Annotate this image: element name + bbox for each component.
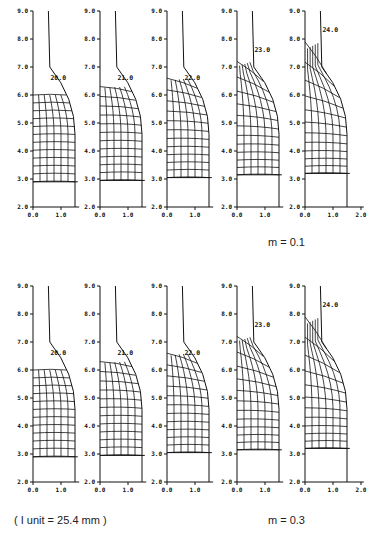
x-tick-label: 1.0	[190, 486, 201, 493]
mesh-row-2: 2.03.04.05.06.07.08.09.00.01.020.02.03.0…	[17, 282, 367, 493]
y-tick-label: 2.0	[84, 203, 95, 210]
y-tick-label: 2.0	[151, 203, 162, 210]
y-tick-label: 3.0	[151, 175, 162, 182]
x-tick-label: 1.0	[56, 211, 67, 218]
mesh-panel: 2.03.04.05.06.07.08.09.00.01.022.0	[151, 282, 213, 493]
stage-label: 20.0	[50, 349, 66, 357]
y-tick-label: 7.0	[221, 63, 232, 70]
y-tick-label: 5.0	[289, 394, 300, 401]
x-tick-label: 0.0	[28, 486, 39, 493]
y-tick-label: 7.0	[17, 338, 28, 345]
x-tick-label: 1.0	[328, 211, 339, 218]
stage-label: 23.0	[254, 46, 270, 54]
x-tick-label: 0.0	[232, 211, 243, 218]
y-tick-label: 9.0	[84, 282, 95, 289]
x-tick-label: 1.0	[190, 211, 201, 218]
y-tick-label: 9.0	[221, 282, 232, 289]
y-tick-label: 5.0	[17, 119, 28, 126]
y-tick-label: 5.0	[84, 394, 95, 401]
mesh-panel: 2.03.04.05.06.07.08.09.00.01.023.0	[221, 7, 283, 218]
y-tick-label: 7.0	[289, 338, 300, 345]
y-tick-label: 6.0	[151, 91, 162, 98]
x-tick-label: 0.0	[95, 211, 106, 218]
mesh-panel: 2.03.04.05.06.07.08.09.00.01.021.0	[84, 282, 146, 493]
y-tick-label: 2.0	[17, 203, 28, 210]
x-tick-label: 0.0	[232, 486, 243, 493]
stage-label: 21.0	[117, 349, 133, 357]
x-tick-label: 1.0	[123, 486, 134, 493]
y-tick-label: 6.0	[221, 91, 232, 98]
y-tick-label: 7.0	[17, 63, 28, 70]
mesh-panel: 2.03.04.05.06.07.08.09.00.01.02.024.0	[289, 7, 367, 218]
y-tick-label: 3.0	[151, 450, 162, 457]
y-tick-label: 2.0	[289, 203, 300, 210]
y-tick-label: 7.0	[84, 338, 95, 345]
y-tick-label: 8.0	[221, 35, 232, 42]
y-tick-label: 5.0	[221, 119, 232, 126]
mesh-deformation-figure: 2.03.04.05.06.07.08.09.00.01.020.02.03.0…	[0, 0, 380, 537]
x-tick-label: 0.0	[162, 211, 173, 218]
y-tick-label: 9.0	[84, 7, 95, 14]
y-tick-label: 9.0	[17, 7, 28, 14]
y-tick-label: 2.0	[221, 478, 232, 485]
y-tick-label: 3.0	[289, 450, 300, 457]
y-tick-label: 8.0	[289, 35, 300, 42]
y-tick-label: 5.0	[151, 119, 162, 126]
x-tick-label: 0.0	[28, 211, 39, 218]
y-tick-label: 9.0	[289, 282, 300, 289]
y-tick-label: 4.0	[17, 147, 28, 154]
y-tick-label: 2.0	[289, 478, 300, 485]
y-tick-label: 5.0	[221, 394, 232, 401]
y-tick-label: 2.0	[221, 203, 232, 210]
x-tick-label: 0.0	[95, 486, 106, 493]
stage-label: 21.0	[117, 74, 133, 82]
y-tick-label: 8.0	[17, 310, 28, 317]
y-tick-label: 5.0	[151, 394, 162, 401]
stage-label: 24.0	[322, 301, 338, 309]
y-tick-label: 3.0	[84, 450, 95, 457]
stage-label: 22.0	[184, 349, 200, 357]
x-tick-label: 0.0	[162, 486, 173, 493]
y-tick-label: 2.0	[151, 478, 162, 485]
y-tick-label: 5.0	[17, 394, 28, 401]
y-tick-label: 8.0	[221, 310, 232, 317]
y-tick-label: 4.0	[289, 422, 300, 429]
y-tick-label: 3.0	[17, 175, 28, 182]
x-tick-label: 0.0	[300, 486, 311, 493]
mesh-panel: 2.03.04.05.06.07.08.09.00.01.021.0	[84, 7, 146, 218]
y-tick-label: 2.0	[17, 478, 28, 485]
y-tick-label: 6.0	[151, 366, 162, 373]
y-tick-label: 6.0	[84, 366, 95, 373]
mesh-panel: 2.03.04.05.06.07.08.09.00.01.020.0	[17, 7, 79, 218]
x-tick-label: 1.0	[260, 486, 271, 493]
y-tick-label: 6.0	[17, 366, 28, 373]
x-tick-label: 1.0	[328, 486, 339, 493]
mesh-panel: 2.03.04.05.06.07.08.09.00.01.02.024.0	[289, 282, 367, 493]
y-tick-label: 6.0	[221, 366, 232, 373]
row1-parameter-caption: m = 0.1	[268, 236, 305, 248]
y-tick-label: 6.0	[84, 91, 95, 98]
y-tick-label: 6.0	[289, 366, 300, 373]
mesh-row-1: 2.03.04.05.06.07.08.09.00.01.020.02.03.0…	[17, 7, 367, 218]
y-tick-label: 7.0	[84, 63, 95, 70]
y-tick-label: 5.0	[289, 119, 300, 126]
y-tick-label: 2.0	[84, 478, 95, 485]
y-tick-label: 4.0	[151, 422, 162, 429]
stage-label: 23.0	[254, 321, 270, 329]
y-tick-label: 8.0	[151, 310, 162, 317]
mesh-plots: 2.03.04.05.06.07.08.09.00.01.020.02.03.0…	[0, 0, 380, 537]
y-tick-label: 5.0	[84, 119, 95, 126]
y-tick-label: 4.0	[289, 147, 300, 154]
y-tick-label: 4.0	[84, 422, 95, 429]
y-tick-label: 8.0	[151, 35, 162, 42]
x-tick-label: 0.0	[300, 211, 311, 218]
y-tick-label: 3.0	[221, 450, 232, 457]
y-tick-label: 9.0	[17, 282, 28, 289]
y-tick-label: 6.0	[17, 91, 28, 98]
y-tick-label: 7.0	[221, 338, 232, 345]
y-tick-label: 3.0	[289, 175, 300, 182]
y-tick-label: 3.0	[17, 450, 28, 457]
y-tick-label: 4.0	[151, 147, 162, 154]
y-tick-label: 4.0	[221, 147, 232, 154]
y-tick-label: 8.0	[84, 310, 95, 317]
